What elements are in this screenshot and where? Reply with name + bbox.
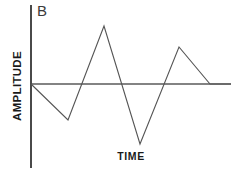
time-axis-label: TIME — [31, 150, 231, 162]
waveform-figure-b: B AMPLITUDE TIME — [0, 0, 231, 172]
waveform-plot-svg — [0, 0, 231, 172]
panel-label-b: B — [37, 3, 47, 18]
